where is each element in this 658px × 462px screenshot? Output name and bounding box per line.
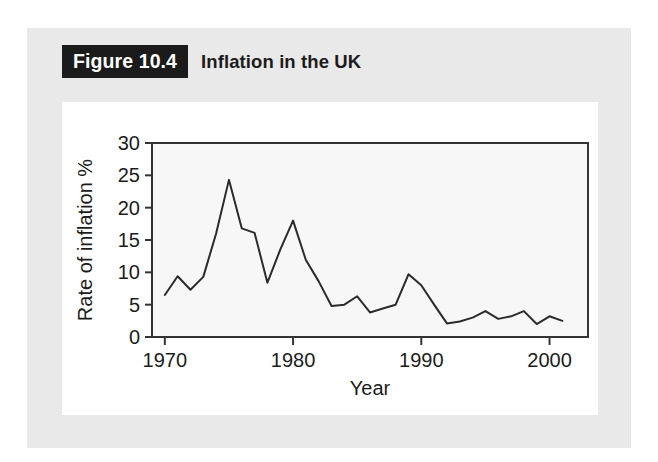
y-tick-label: 20 xyxy=(118,197,140,219)
x-axis-title: Year xyxy=(350,377,391,399)
x-tick-label: 1980 xyxy=(271,349,316,371)
y-tick-label: 25 xyxy=(118,164,140,186)
y-axis: 051015202530 xyxy=(118,132,152,348)
figure-caption-row: Figure 10.4 Inflation in the UK xyxy=(62,45,361,78)
y-axis-title: Rate of inflation % xyxy=(74,159,96,322)
inflation-line-chart: 051015202530 1970198019902000 Rate of in… xyxy=(62,102,598,415)
figure-caption-title: Inflation in the UK xyxy=(201,51,361,73)
y-tick-label: 5 xyxy=(129,294,140,316)
x-tick-label: 2000 xyxy=(527,349,572,371)
plot-background xyxy=(152,143,588,337)
figure-number-badge: Figure 10.4 xyxy=(62,45,188,78)
x-tick-label: 1990 xyxy=(399,349,444,371)
x-tick-label: 1970 xyxy=(143,349,188,371)
y-tick-label: 15 xyxy=(118,229,140,251)
y-tick-label: 30 xyxy=(118,132,140,154)
x-axis: 1970198019902000 xyxy=(143,337,572,371)
y-tick-label: 0 xyxy=(129,326,140,348)
chart-card: 051015202530 1970198019902000 Rate of in… xyxy=(62,102,598,415)
y-tick-label: 10 xyxy=(118,261,140,283)
